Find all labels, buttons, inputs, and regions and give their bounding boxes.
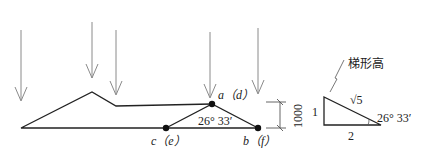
dimension-line [266, 99, 286, 131]
point-b [255, 125, 261, 131]
label-b: b（f） [243, 134, 276, 148]
slope-diagram: a（d） c（e） b（f） 26° 33′ 1000 梯形高 √5 1 2 2… [0, 0, 428, 159]
dimension-label: 1000 [291, 104, 305, 128]
angle-label: 26° 33′ [198, 114, 233, 128]
point-a [209, 101, 215, 107]
label-a: a（d） [218, 88, 254, 102]
label-c: c（e） [151, 134, 186, 148]
callout-label: 梯形高 [348, 56, 384, 71]
arrow-down-icon [204, 32, 216, 98]
arrow-down-icon [15, 30, 27, 101]
arrow-down-icon [86, 22, 98, 78]
arrow-down-icon [252, 28, 264, 94]
point-c [163, 125, 169, 131]
triangle-angle-label: 26° 33′ [377, 111, 412, 125]
hypotenuse-label: √5 [350, 93, 363, 107]
horizontal-label: 2 [348, 129, 354, 143]
vertical-label: 1 [312, 105, 318, 119]
arrow-down-icon [110, 30, 122, 95]
